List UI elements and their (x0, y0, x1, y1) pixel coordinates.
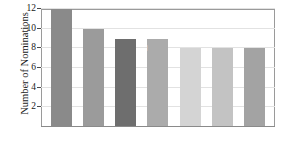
x-axis-line (41, 126, 275, 127)
y-axis-label-2: 2 (12, 102, 36, 112)
y-axis-label-8: 8 (12, 43, 36, 53)
bar-lemmon[interactable]: Lemmon (212, 48, 233, 127)
y-axis-label-4: 4 (12, 83, 36, 93)
bar-newman[interactable]: Newman (115, 39, 136, 128)
bar-pacino[interactable]: Pacino (244, 48, 265, 127)
bar-olivier[interactable]: Olivier (83, 29, 104, 127)
bar-nicholson[interactable]: Nicholson (51, 9, 72, 127)
bar-chart: Number of Nominations NicholsonOlivierNe… (0, 0, 283, 141)
bar-brando[interactable]: Brando (180, 48, 201, 127)
bar-slot: Lemmon (206, 9, 238, 127)
bar-tracy[interactable]: Tracy (147, 39, 168, 128)
y-axis-label-6: 6 (12, 63, 36, 73)
y-axis-label-10: 10 (12, 24, 36, 34)
bar-slot: Tracy (142, 9, 174, 127)
y-axis-label-12: 12 (12, 4, 36, 14)
bar-series: NicholsonOlivierNewmanTracyBrandoLemmonP… (41, 9, 275, 127)
bar-slot: Brando (174, 9, 206, 127)
bar-slot: Olivier (77, 9, 109, 127)
bar-slot: Nicholson (45, 9, 77, 127)
bar-slot: Newman (110, 9, 142, 127)
plot-area: NicholsonOlivierNewmanTracyBrandoLemmonP… (41, 9, 275, 127)
bar-slot: Pacino (239, 9, 271, 127)
